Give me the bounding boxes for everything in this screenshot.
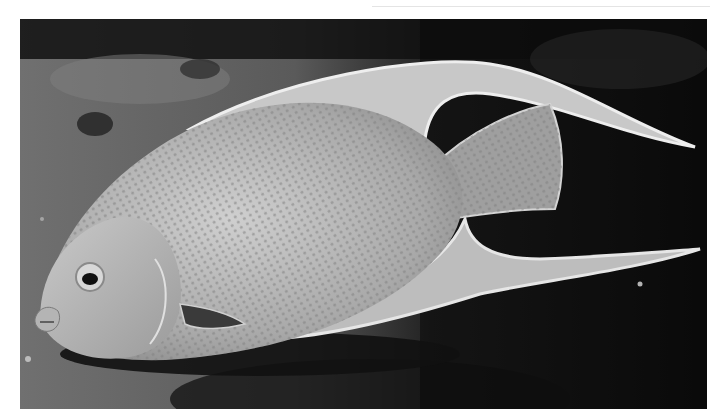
fish-illustration xyxy=(20,19,707,409)
top-divider-line xyxy=(372,6,710,7)
angelfish-photo xyxy=(20,19,707,409)
